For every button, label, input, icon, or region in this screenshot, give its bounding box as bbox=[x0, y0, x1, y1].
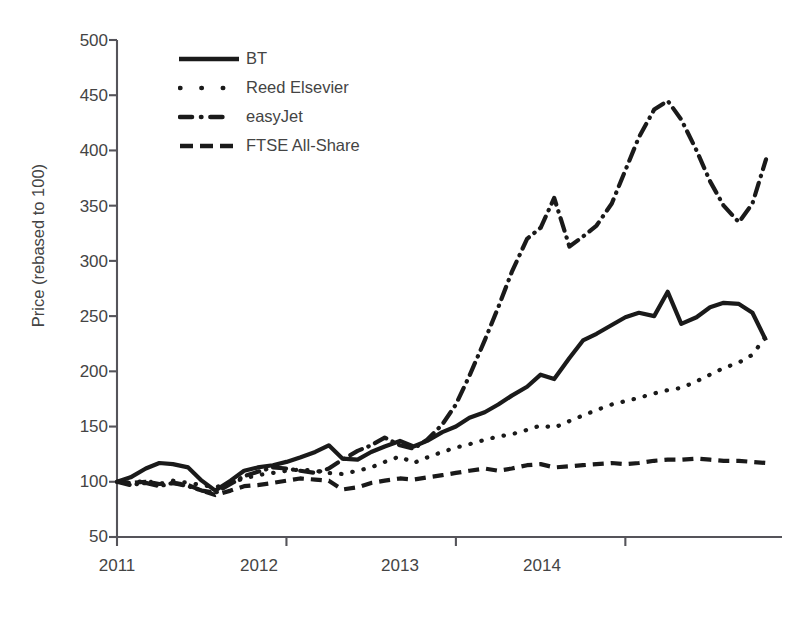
legend-item-easyjet: easyJet bbox=[178, 102, 360, 131]
solid-line-swatch bbox=[178, 52, 240, 66]
y-tick-label-500: 500 bbox=[62, 31, 108, 51]
dotted-line-swatch bbox=[178, 81, 240, 95]
x-tick-label-2011: 2011 bbox=[82, 556, 152, 576]
y-tick-label-50: 50 bbox=[62, 527, 108, 547]
y-tick-label-400: 400 bbox=[62, 141, 108, 161]
stock-price-line-chart: Price (rebased to 100) 500 450 400 350 3… bbox=[0, 0, 794, 623]
dashdot-line-swatch bbox=[178, 110, 240, 124]
chart-legend: BT Reed Elsevier easyJet FTSE All-Share bbox=[178, 44, 360, 160]
legend-label-easyjet: easyJet bbox=[246, 108, 303, 125]
dashed-line-swatch bbox=[178, 139, 240, 153]
y-tick-label-200: 200 bbox=[62, 362, 108, 382]
y-axis-title: Price (rebased to 100) bbox=[29, 146, 48, 346]
plot-area bbox=[0, 0, 794, 623]
x-tick-label-2012: 2012 bbox=[224, 556, 294, 576]
legend-item-bt: BT bbox=[178, 44, 360, 73]
legend-item-reed-elsevier: Reed Elsevier bbox=[178, 73, 360, 102]
legend-item-ftse-all-share: FTSE All-Share bbox=[178, 131, 360, 160]
y-tick-label-350: 350 bbox=[62, 197, 108, 217]
y-tick-label-100: 100 bbox=[62, 472, 108, 492]
series-line-reed-elsevier bbox=[117, 336, 766, 487]
x-tick-label-2013: 2013 bbox=[365, 556, 435, 576]
y-tick-label-250: 250 bbox=[62, 307, 108, 327]
legend-label-ftse-all-share: FTSE All-Share bbox=[246, 137, 360, 154]
y-tick-label-450: 450 bbox=[62, 86, 108, 106]
legend-label-reed-elsevier: Reed Elsevier bbox=[246, 79, 349, 96]
y-tick-label-150: 150 bbox=[62, 417, 108, 437]
legend-label-bt: BT bbox=[246, 50, 267, 67]
y-tick-label-300: 300 bbox=[62, 252, 108, 272]
x-tick-label-2014: 2014 bbox=[507, 556, 577, 576]
